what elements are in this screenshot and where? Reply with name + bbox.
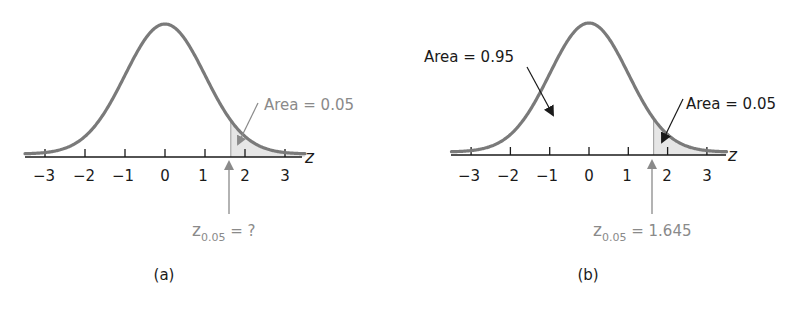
panel-label-a: (a): [154, 266, 175, 284]
tail-area-label: Area = 0.05: [686, 95, 776, 113]
tick-label: −1: [112, 167, 134, 185]
x-axis-label: z: [304, 147, 315, 167]
tail-area-label: Area = 0.05: [264, 96, 354, 114]
figure: −3 −2 −1 0 1 2 3 z Area = 0.05 z0.05 = ?…: [0, 0, 806, 311]
panel-a: −3 −2 −1 0 1 2 3 z Area = 0.05 z0.05 = ?…: [25, 24, 354, 284]
tail-area-arrow: [662, 99, 683, 142]
panel-b: −3 −2 −1 0 1 2 3 z Area = 0.95 Area = 0.…: [424, 23, 776, 284]
critical-value-label: z0.05 = ?: [192, 220, 256, 244]
critical-value-label: z0.05 = 1.645: [593, 220, 691, 244]
tick-label: 1: [198, 167, 208, 185]
tick-label: 0: [160, 167, 170, 185]
normal-curve: [451, 23, 726, 152]
tick-label: 1: [622, 167, 632, 185]
tick-label: −1: [536, 167, 558, 185]
tick-label: −2: [73, 167, 95, 185]
tick-label: 0: [584, 167, 594, 185]
normal-curve: [25, 24, 305, 154]
tick-label: 2: [662, 167, 672, 185]
panel-label-b: (b): [577, 266, 598, 284]
tick-label: −3: [33, 167, 55, 185]
tick-label: −3: [458, 167, 480, 185]
x-axis-label: z: [727, 145, 738, 165]
tick-label: −2: [497, 167, 519, 185]
shaded-tail-region: [231, 120, 305, 157]
central-area-label: Area = 0.95: [424, 48, 514, 66]
tick-label: 3: [280, 167, 290, 185]
tick-label: 2: [240, 167, 250, 185]
tick-label: 3: [702, 167, 712, 185]
